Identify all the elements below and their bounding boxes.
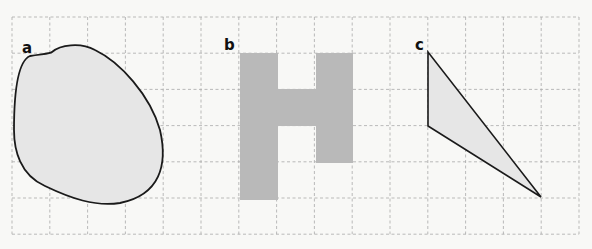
label-c: c: [415, 36, 424, 54]
shape-a-blob: [14, 45, 163, 204]
label-b: b: [224, 36, 235, 54]
shape-grid-diagram: a b c: [0, 0, 592, 249]
shape-c-triangle: [428, 52, 541, 197]
label-a: a: [22, 39, 32, 57]
shape-b-h: [240, 53, 353, 200]
